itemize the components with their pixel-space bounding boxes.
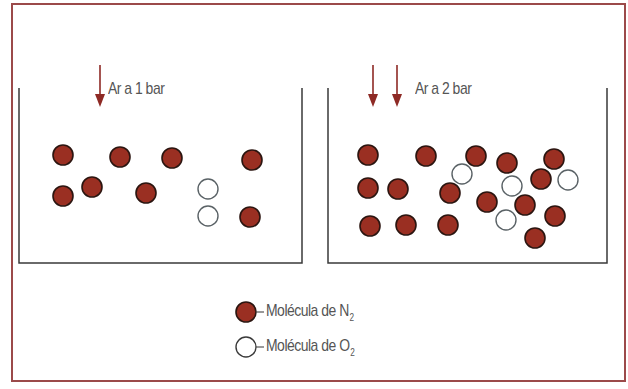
n2-molecule	[136, 183, 156, 203]
n2-molecule	[360, 216, 380, 236]
o2-molecule	[558, 170, 578, 190]
n2-molecule	[466, 146, 486, 166]
legend-o2-subscript: 2	[350, 347, 354, 358]
n2-molecule	[53, 145, 73, 165]
n2-molecule	[544, 149, 564, 169]
molecules	[53, 145, 578, 248]
n2-molecule	[358, 145, 378, 165]
n2-molecule	[477, 192, 497, 212]
n2-molecule	[396, 215, 416, 235]
n2-molecule-icon	[236, 302, 256, 322]
n2-molecule	[162, 148, 182, 168]
n2-molecule	[388, 179, 408, 199]
o2-molecule	[452, 164, 472, 184]
left-pressure-label: Ar a 1 bar	[108, 79, 164, 99]
legend-o2: Molécula de O2	[266, 336, 354, 358]
n2-molecule	[545, 206, 565, 226]
legend-symbols	[236, 302, 264, 357]
right-pressure-label: Ar a 2 bar	[415, 79, 471, 99]
legend-n2-subscript: 2	[350, 312, 354, 323]
arrow-head-icon	[368, 94, 378, 107]
n2-molecule	[531, 169, 551, 189]
o2-molecule	[502, 176, 522, 196]
n2-molecule	[416, 146, 436, 166]
n2-molecule	[110, 147, 130, 167]
o2-molecule	[198, 206, 218, 226]
arrow-head-icon	[95, 94, 105, 107]
arrow-head-icon	[392, 94, 402, 107]
n2-molecule	[515, 195, 535, 215]
legend-n2-label: Molécula de N	[266, 301, 349, 320]
o2-molecule	[496, 210, 516, 230]
n2-molecule	[525, 228, 545, 248]
n2-molecule	[240, 207, 260, 227]
n2-molecule	[53, 186, 73, 206]
legend-n2: Molécula de N2	[266, 301, 354, 323]
n2-molecule	[358, 178, 378, 198]
diagram-canvas	[0, 0, 628, 389]
o2-molecule	[198, 179, 218, 199]
n2-molecule	[440, 183, 460, 203]
legend-o2-label: Molécula de O	[266, 336, 349, 355]
n2-molecule	[82, 177, 102, 197]
n2-molecule	[438, 215, 458, 235]
o2-molecule-icon	[236, 337, 256, 357]
n2-molecule	[242, 150, 262, 170]
n2-molecule	[497, 153, 517, 173]
